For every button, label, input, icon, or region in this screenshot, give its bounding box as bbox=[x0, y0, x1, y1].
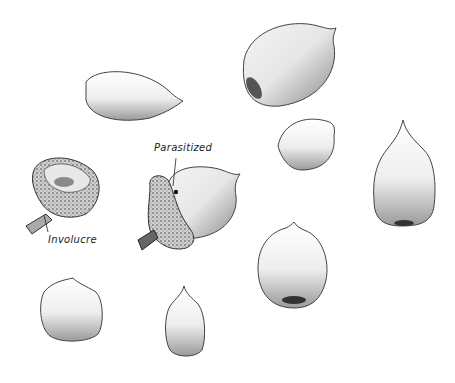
label-parasitized: Parasitized bbox=[154, 142, 212, 153]
acorn-round-lower bbox=[258, 222, 327, 308]
acorn-elongated bbox=[86, 72, 183, 121]
parasite-hole bbox=[174, 190, 178, 194]
acorn-squat-bottom bbox=[41, 278, 103, 341]
involucre-cup bbox=[26, 158, 99, 234]
acorn-tall-right bbox=[374, 120, 435, 226]
acorn-illustration: Parasitized Involucre bbox=[0, 0, 455, 383]
acorn-large-top bbox=[243, 24, 336, 107]
acorn-small-mid bbox=[278, 119, 335, 170]
label-involucre: Involucre bbox=[48, 234, 97, 245]
acorn-small-bottom bbox=[166, 286, 205, 356]
acorn-parasitized bbox=[138, 158, 240, 250]
sketch-drawing bbox=[0, 0, 455, 383]
